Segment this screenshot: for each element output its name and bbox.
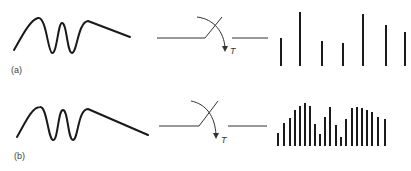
sample-bar xyxy=(280,38,282,66)
sample-bar xyxy=(329,107,331,146)
sample-bar xyxy=(385,25,387,66)
sample-bar xyxy=(289,118,291,146)
panel-a xyxy=(14,12,406,66)
sample-bars-b xyxy=(277,103,386,146)
sample-bar xyxy=(361,108,363,146)
sample-bar xyxy=(371,112,373,146)
panel-b xyxy=(17,101,386,146)
sample-bar xyxy=(309,106,311,146)
sample-bar xyxy=(342,43,344,66)
sample-bar xyxy=(351,108,353,146)
analog-signal-a xyxy=(14,18,130,53)
sample-bar xyxy=(294,110,296,146)
sample-bar xyxy=(304,103,306,146)
panel-label-a: (a) xyxy=(11,65,22,75)
sample-bar xyxy=(324,117,326,146)
sampling-switch-b xyxy=(159,101,267,139)
period-label-b: T xyxy=(221,135,227,145)
sample-bar xyxy=(384,119,386,146)
sample-bar xyxy=(319,134,321,146)
sample-bar xyxy=(366,110,368,146)
sample-bar xyxy=(299,12,301,66)
sample-bars-a xyxy=(280,12,406,66)
sample-bar xyxy=(362,14,364,66)
period-label-a: T xyxy=(230,46,236,56)
sample-bar xyxy=(404,32,406,66)
arrowhead-icon xyxy=(213,133,219,139)
sample-bar xyxy=(299,106,301,146)
sample-bar xyxy=(335,125,337,146)
sample-bar xyxy=(340,137,342,146)
arrowhead-icon xyxy=(222,46,228,52)
panel-label-b: (b) xyxy=(14,151,25,161)
sample-bar xyxy=(377,117,379,146)
sample-bar xyxy=(321,41,323,66)
sampling-diagram xyxy=(0,0,411,171)
analog-signal-b xyxy=(17,107,148,140)
sample-bar xyxy=(283,123,285,146)
sample-bar xyxy=(345,119,347,146)
sampling-switch-a xyxy=(157,17,268,52)
sample-bar xyxy=(277,133,279,146)
sample-bar xyxy=(356,107,358,146)
sample-bar xyxy=(314,124,316,146)
